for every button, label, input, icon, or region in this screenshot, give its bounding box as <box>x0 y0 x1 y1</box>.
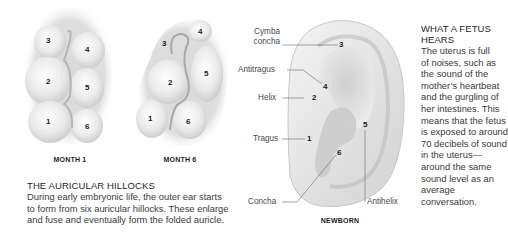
label-helix: Helix <box>258 93 276 102</box>
sidebar-line: and the gurgling of <box>421 91 508 103</box>
newborn-caption: NEWBORN <box>310 217 370 224</box>
sidebar-line: around the same <box>421 161 508 173</box>
ear-number-5: 5 <box>363 120 367 129</box>
fetus-hears-section: WHAT A FETUS HEARS The uterus is full of… <box>421 23 508 207</box>
sidebar-line: is exposed to around <box>421 126 508 138</box>
ear-number-4: 4 <box>323 82 327 91</box>
newborn-ear-illustration <box>288 20 404 206</box>
label-concha: Concha <box>248 197 276 206</box>
ear-number-3: 3 <box>339 40 343 49</box>
sidebar-line: mother’s heartbeat <box>421 80 508 92</box>
sidebar-line: in the uterus— <box>421 149 508 161</box>
hillocks-line: to form from six auricular hillocks. The… <box>27 203 242 215</box>
month1-caption: MONTH 1 <box>40 156 100 163</box>
hillock-number: 3 <box>162 39 166 48</box>
label-antitragus: Antitragus <box>238 65 275 74</box>
label-text: concha <box>250 37 280 47</box>
ear-number-2: 2 <box>312 93 316 102</box>
sidebar-line: average conversation. <box>421 184 508 207</box>
sidebar-line: sound level as an <box>421 173 508 185</box>
sidebar-line: the sound of the <box>421 68 508 80</box>
label-antihelix: Antihelix <box>367 197 398 206</box>
month6-caption: MONTH 6 <box>150 156 210 163</box>
sidebar-line: means that the fetus <box>421 115 508 127</box>
hillock-number: 2 <box>168 78 172 87</box>
label-tragus: Tragus <box>253 134 278 143</box>
label-cymba-concha: Cymba concha <box>250 27 280 47</box>
sidebar-line: her intestines. This <box>421 103 508 115</box>
hillocks-heading: THE AURICULAR HILLOCKS <box>27 180 242 191</box>
hillocks-section: THE AURICULAR HILLOCKS During early embr… <box>27 180 242 226</box>
month6-illustration <box>136 18 228 146</box>
hillock-number: 5 <box>204 69 208 78</box>
hillock-number: 2 <box>46 77 50 86</box>
hillock-number: 5 <box>85 83 89 92</box>
label-text: Cymba <box>250 27 280 37</box>
hillock-number: 6 <box>85 122 89 131</box>
hillock-number: 1 <box>148 114 152 123</box>
sidebar-line: The uterus is full <box>421 45 508 57</box>
sidebar-line: 70 decibels of sound <box>421 138 508 150</box>
ear-number-6: 6 <box>337 148 341 157</box>
sidebar-line: of noises, such as <box>421 57 508 69</box>
sidebar-heading-line: WHAT A FETUS <box>421 23 508 34</box>
hillock-number: 4 <box>85 45 89 54</box>
hillocks-line: and fuse and eventually form the folded … <box>27 214 242 226</box>
month1-illustration <box>25 8 112 144</box>
ear-number-1: 1 <box>307 134 311 143</box>
hillock-number: 1 <box>46 117 50 126</box>
hillock-number: 6 <box>186 117 190 126</box>
hillocks-line: During early embryonic life, the outer e… <box>27 191 242 203</box>
hillock-number: 4 <box>198 27 202 36</box>
sidebar-heading-line: HEARS <box>421 34 508 45</box>
hillock-number: 3 <box>46 36 50 45</box>
